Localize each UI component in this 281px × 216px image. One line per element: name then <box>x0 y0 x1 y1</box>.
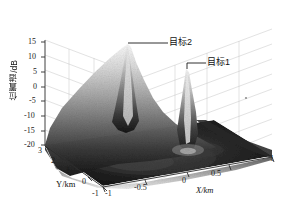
x-tick-0: 0 <box>182 177 186 185</box>
z-tick-m15: -15 <box>24 127 35 135</box>
callout-target-1: 目标1 <box>207 58 230 67</box>
z-axis-ticks <box>41 42 45 145</box>
y-tick-m1: -1 <box>92 190 99 198</box>
z-tick-m20: -20 <box>24 141 35 149</box>
y-axis-title: Y/km <box>56 180 75 189</box>
y-tick-3: 3 <box>38 147 42 155</box>
z-tick-m5: -5 <box>29 97 36 105</box>
z-tick-10: 10 <box>28 53 36 61</box>
y-tick-2: 2 <box>51 157 55 165</box>
z-axis-title: 位置谱/dB <box>10 60 22 100</box>
z-tick-m10: -10 <box>24 112 35 120</box>
z-tick-15: 15 <box>28 38 36 46</box>
x-tick-m05: -0.5 <box>134 184 147 192</box>
x-tick-m1: -1 <box>105 190 112 198</box>
y-tick-1: 1 <box>66 167 70 175</box>
x-tick-05: 0.5 <box>211 170 221 178</box>
z-tick-5: 5 <box>33 68 37 76</box>
y-tick-0: 0 <box>82 178 86 186</box>
callout-target-2: 目标2 <box>169 38 192 47</box>
x-tick-1: 1 <box>270 155 274 163</box>
x-axis-title: X/km <box>196 186 213 195</box>
z-tick-0: 0 <box>33 83 37 91</box>
stray-data-marker <box>245 97 247 99</box>
figure-canvas: 15 10 5 0 -5 -10 -15 -20 3 2 1 0 -1 -1 -… <box>0 0 281 216</box>
